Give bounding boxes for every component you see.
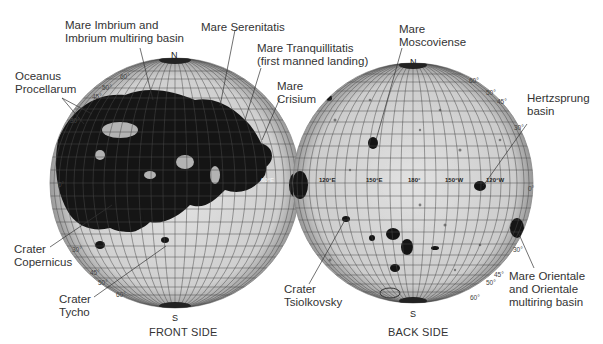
back-lat-equator: 0° (528, 185, 534, 192)
back-equator-lon-180: 180° (408, 177, 420, 183)
front-lat-45n: 45° (92, 93, 102, 100)
front-lat-30n: 30° (70, 117, 80, 124)
back-lat-30s: 30° (513, 246, 523, 253)
back-equator-lon-120w: 120°W (486, 177, 504, 183)
front-lat-60s: 60° (116, 291, 126, 298)
front-lat-60n: 60° (120, 73, 130, 80)
callout-mare-crisium: Mare Crisium (277, 80, 316, 106)
back-lat-60n: 60° (469, 77, 479, 84)
back-south-label: S (410, 309, 416, 319)
front-north-label: N (171, 50, 178, 60)
callout-mare-serenitatis: Mare Serenitatis (201, 21, 285, 34)
callout-mare-orientale: Mare Orientale and Orientale multiring b… (509, 270, 585, 309)
front-south-label: S (172, 313, 178, 323)
callout-crater-tycho: Crater Tycho (59, 293, 91, 319)
callout-crater-tsiolkovsky: Crater Tsiolkovsky (284, 283, 342, 309)
back-equator-lon-120e: 120°E (319, 177, 335, 183)
back-lat-45s: 45° (494, 271, 504, 278)
front-lat-50n: 50° (102, 84, 112, 91)
front-lat-50s: 50° (98, 279, 108, 286)
back-north-label: N (410, 57, 417, 67)
callout-crater-copernicus: Crater Copernicus (14, 243, 72, 269)
front-equator-lon-60e: 60°E (261, 177, 274, 183)
front-lat-30s: 30° (72, 246, 82, 253)
back-lat-50s: 50° (486, 279, 496, 286)
back-equator-lon-150w: 150°W (445, 177, 463, 183)
callout-hertzsprung-basin: Hertzsprung basin (527, 92, 590, 118)
front-lat-equator: 0° (58, 181, 64, 188)
back-side-caption: BACK SIDE (388, 326, 449, 338)
back-equator-lon-150e: 150°E (366, 177, 382, 183)
back-lat-30n: 30° (514, 124, 524, 131)
back-lat-50n: 50° (486, 89, 496, 96)
front-side-caption: FRONT SIDE (149, 326, 217, 338)
callout-oceanus-procellarum: Oceanus Procellarum (15, 70, 76, 96)
callout-mare-moscoviense: Mare Moscoviense (399, 23, 466, 49)
front-lat-45s: 45° (90, 269, 100, 276)
callout-mare-imbrium: Mare Imbrium and Imbrium multiring basin (65, 19, 184, 45)
back-lat-45n: 45° (497, 98, 507, 105)
front-side-globe (40, 56, 310, 310)
back-lat-60s: 60° (470, 294, 480, 301)
callout-mare-tranquillitatis: Mare Tranquillitatis (first manned landi… (257, 42, 368, 68)
